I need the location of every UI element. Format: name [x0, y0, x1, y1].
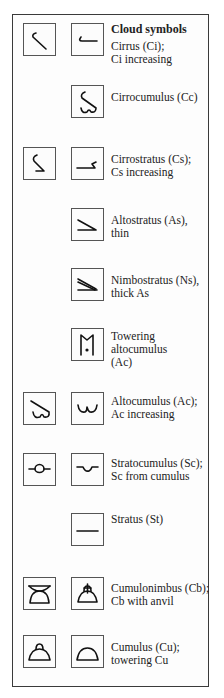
legend-label: Altocumulus (Ac); [111, 395, 211, 408]
cumulonimbus-icon [24, 578, 55, 609]
legend-label: Cumulonimbus (Cb); [111, 582, 211, 595]
legend-label: towering Cu [111, 654, 211, 667]
legend-text-towering-altocumulus: Towering altocumulus (Ac) [111, 330, 211, 369]
legend-text-stratus: Stratus (St) [111, 513, 211, 526]
legend-text-nimbostratus: Nimbostratus (Ns), thick As [111, 274, 211, 300]
legend-label: altocumulus [111, 343, 211, 356]
cirrus-symbol-box [23, 23, 56, 56]
cirrocumulus-symbol-box [71, 85, 104, 118]
legend-label: Ac increasing [111, 408, 211, 421]
legend-label: Cirrus (Ci); [111, 40, 211, 53]
cumulus-symbol-box [23, 635, 56, 668]
legend-label: Nimbostratus (Ns), [111, 274, 211, 287]
legend-label: Altostratus (As), [111, 214, 211, 227]
cirrus-increasing-icon [72, 24, 103, 55]
stratocumulus-from-cumulus-icon [72, 454, 103, 485]
legend-label: Cumulus (Cu); [111, 641, 211, 654]
cirrostratus-symbol-box [23, 147, 56, 180]
legend-label: Stratus (St) [111, 513, 211, 526]
legend-row-cumulonimbus: Cumulonimbus (Cb); Cb with anvil [0, 577, 224, 611]
legend-label: Cirrocumulus (Cc) [111, 91, 211, 104]
cumulus-icon [24, 636, 55, 667]
legend-text-altocumulus: Altocumulus (Ac); Ac increasing [111, 395, 211, 421]
stratocumulus-symbol-box [23, 453, 56, 486]
altostratus-thin-symbol-box [71, 208, 104, 241]
legend-row-stratus: Stratus (St) [0, 513, 224, 547]
legend-text-stratocumulus: Stratocumulus (Sc); Sc from cumulus [111, 457, 211, 483]
cirrus-icon [24, 24, 55, 55]
legend-text-cirrus: Cloud symbols Cirrus (Ci); Ci increasing [111, 23, 211, 66]
legend-row-cirrus: Cloud symbols Cirrus (Ci); Ci increasing [0, 23, 224, 57]
stratocumulus-icon [24, 454, 55, 485]
cirrocumulus-icon [72, 86, 103, 117]
cirrostratus-increasing-icon [72, 148, 103, 179]
cumulonimbus-symbol-box [23, 577, 56, 610]
stratocumulus-from-cumulus-symbol-box [71, 453, 104, 486]
cirrostratus-increasing-symbol-box [71, 147, 104, 180]
towering-cumulus-symbol-box [71, 635, 104, 668]
altostratus-thin-icon [72, 209, 103, 240]
legend-label: Towering [111, 330, 211, 343]
legend-label: Ci increasing [111, 53, 211, 66]
legend-title: Cloud symbols [111, 23, 211, 36]
towering-altocumulus-icon [72, 329, 103, 360]
cumulonimbus-anvil-symbol-box [71, 577, 104, 610]
legend-label: Cb with anvil [111, 595, 211, 608]
legend-label: Cs increasing [111, 166, 211, 179]
legend-label: (Ac) [111, 356, 211, 369]
towering-altocumulus-symbol-box [71, 328, 104, 361]
legend-row-nimbostratus: Nimbostratus (Ns), thick As [0, 268, 224, 302]
legend-label: Stratocumulus (Sc); [111, 457, 211, 470]
legend-text-cirrocumulus: Cirrocumulus (Cc) [111, 91, 211, 104]
altocumulus-icon [24, 393, 55, 424]
nimbostratus-icon [72, 269, 103, 300]
legend-label: thin [111, 227, 211, 240]
legend-text-cirrostratus: Cirrostratus (Cs); Cs increasing [111, 153, 211, 179]
legend-label: Cirrostratus (Cs); [111, 153, 211, 166]
legend-label: Sc from cumulus [111, 470, 211, 483]
legend-row-altostratus: Altostratus (As), thin [0, 208, 224, 242]
altocumulus-symbol-box [23, 392, 56, 425]
legend-row-stratocumulus: Stratocumulus (Sc); Sc from cumulus [0, 453, 224, 487]
cirrostratus-icon [24, 148, 55, 179]
cumulonimbus-anvil-icon [72, 578, 103, 609]
legend-text-cumulus: Cumulus (Cu); towering Cu [111, 641, 211, 667]
legend-text-cumulonimbus: Cumulonimbus (Cb); Cb with anvil [111, 582, 211, 608]
legend-row-altocumulus: Altocumulus (Ac); Ac increasing [0, 392, 224, 426]
legend-row-cumulus: Cumulus (Cu); towering Cu [0, 635, 224, 669]
legend-label: thick As [111, 287, 211, 300]
legend-row-cirrocumulus: Cirrocumulus (Cc) [0, 85, 224, 119]
legend-row-towering-altocumulus: Towering altocumulus (Ac) [0, 328, 224, 362]
towering-cumulus-icon [72, 636, 103, 667]
stratus-symbol-box [71, 513, 104, 546]
altocumulus-increasing-symbol-box [71, 392, 104, 425]
legend-row-cirrostratus: Cirrostratus (Cs); Cs increasing [0, 147, 224, 181]
altocumulus-increasing-icon [72, 393, 103, 424]
stratus-icon [72, 514, 103, 545]
nimbostratus-symbol-box [71, 268, 104, 301]
legend-text-altostratus: Altostratus (As), thin [111, 214, 211, 240]
cirrus-increasing-symbol-box [71, 23, 104, 56]
